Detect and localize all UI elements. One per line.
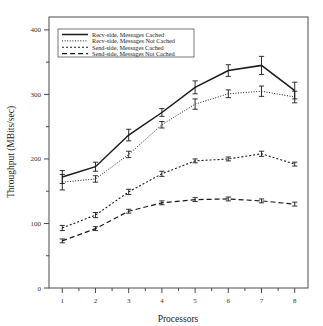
x-axis-title: Processors — [158, 314, 199, 324]
error-bar — [60, 225, 65, 230]
y-tick-label: 200 — [31, 155, 42, 163]
error-bar — [259, 151, 264, 156]
y-tick-label: 400 — [31, 26, 42, 34]
series-3 — [60, 197, 298, 243]
plot-frame — [49, 17, 308, 288]
error-bar — [60, 239, 65, 243]
error-bar — [126, 151, 131, 157]
x-tick-label: 1 — [61, 297, 65, 305]
y-tick-label: 0 — [38, 285, 42, 293]
series-0 — [60, 56, 298, 183]
error-bar — [193, 81, 198, 94]
x-tick-label: 7 — [260, 297, 264, 305]
x-tick-label: 5 — [193, 297, 197, 305]
y-tick-label: 300 — [31, 91, 42, 99]
x-tick-label: 2 — [94, 297, 98, 305]
error-bar — [193, 99, 198, 109]
chart-container: 010020030040012345678 Recv-side, Message… — [0, 0, 323, 326]
y-tick-label: 100 — [31, 220, 42, 228]
line-chart: 010020030040012345678 Recv-side, Message… — [0, 0, 323, 326]
x-tick-label: 4 — [160, 297, 164, 305]
plot-border — [49, 17, 308, 288]
axis-tick-labels: 010020030040012345678 — [31, 26, 297, 305]
error-bar — [93, 213, 98, 218]
error-bar — [159, 122, 164, 128]
series-line — [62, 65, 294, 177]
error-bar — [159, 171, 164, 176]
x-tick-label: 3 — [127, 297, 131, 305]
x-tick-label: 8 — [293, 297, 297, 305]
error-bar — [93, 227, 98, 231]
y-axis-title: Throughput (MBits/sec) — [6, 106, 17, 198]
error-bar — [292, 202, 297, 206]
series-line — [62, 91, 294, 182]
error-bar — [226, 90, 231, 98]
x-tick-label: 6 — [227, 297, 231, 305]
axis-ticks — [44, 30, 295, 293]
series-1 — [60, 86, 298, 190]
error-bar — [126, 129, 131, 141]
legend-label-3: Send-side, Messages Not Cached — [92, 50, 175, 57]
series-line — [62, 199, 294, 241]
error-bar — [159, 109, 164, 117]
error-bar — [193, 159, 198, 163]
chart-legend: Recv-side, Messages CachedRecv-side, Mes… — [58, 29, 194, 57]
data-series-group — [60, 56, 298, 242]
